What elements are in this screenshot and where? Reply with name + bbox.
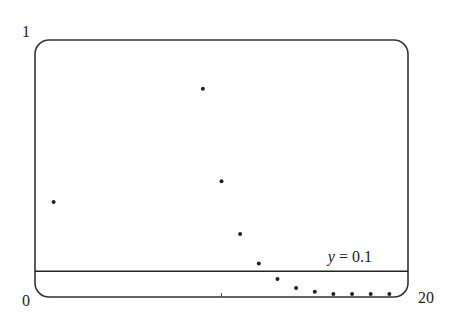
data-point [331, 292, 335, 296]
data-point [220, 179, 224, 183]
data-point [257, 262, 261, 266]
data-point [275, 277, 279, 281]
y-max-label: 1 [22, 23, 30, 40]
data-point [387, 292, 391, 296]
data-point [201, 87, 205, 91]
y-min-label: 0 [22, 292, 30, 309]
reference-line-label: y = 0.1 [326, 248, 372, 266]
data-point [238, 232, 242, 236]
data-point [294, 286, 298, 290]
data-point [369, 292, 373, 296]
x-max-label: 20 [418, 289, 434, 306]
scatter-plot: y = 0.1 1 0 20 [0, 0, 463, 329]
data-point [350, 292, 354, 296]
data-point [52, 200, 56, 204]
data-point [313, 290, 317, 294]
